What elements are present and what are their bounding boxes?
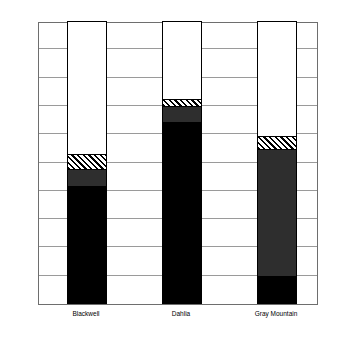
plot-area: [38, 22, 318, 305]
bar-segment-dark-gray: [258, 149, 296, 276]
bar-segment-hatched: [68, 154, 106, 168]
bar-segment-black: [163, 122, 201, 303]
bar-segment-black: [258, 276, 296, 303]
bar-segment-hatched: [258, 136, 296, 149]
bar-blackwell[interactable]: [67, 21, 107, 304]
bar-dahlia[interactable]: [162, 21, 202, 304]
bar-segment-dark-gray: [68, 169, 106, 186]
bar-segment-dark-gray: [163, 106, 201, 122]
bar-segment-white: [163, 21, 201, 99]
stacked-bar-chart: 100%90%80%70%60%50%40%30%20%10%0% Blackw…: [0, 0, 340, 339]
bar-segment-white: [258, 21, 296, 136]
bar-gray-mountain[interactable]: [257, 21, 297, 304]
bar-segment-black: [68, 186, 106, 303]
x-axis-label-dahlia: Dahlia: [172, 311, 190, 318]
bar-segment-white: [68, 21, 106, 154]
bar-segment-hatched: [163, 99, 201, 106]
x-axis-label-blackwell: Blackwell: [72, 311, 99, 318]
x-axis-label-gray-mountain: Gray Mountain: [255, 311, 298, 318]
